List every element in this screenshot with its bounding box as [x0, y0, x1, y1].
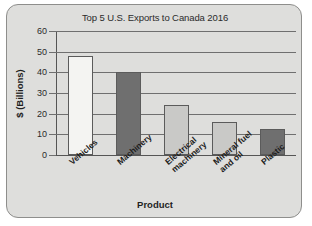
y-axis-tick	[49, 52, 56, 53]
x-axis-title: Product	[7, 199, 303, 210]
y-axis-tick-label: 30	[37, 88, 47, 98]
y-axis-tick	[49, 31, 56, 32]
y-axis-tick-label: 50	[37, 47, 47, 57]
gridline	[56, 31, 296, 32]
y-axis-title: $ (Billions)	[12, 31, 26, 155]
y-axis-tick-label: 20	[37, 109, 47, 119]
y-axis-title-text: $ (Billions)	[14, 69, 25, 118]
y-axis-tick-label: 60	[37, 26, 47, 36]
y-axis-tick	[49, 155, 56, 156]
y-axis-tick	[49, 134, 56, 135]
y-axis-tick-label: 0	[42, 150, 47, 160]
y-axis-tick-label: 10	[37, 129, 47, 139]
y-axis-tick	[49, 93, 56, 94]
gridline	[56, 52, 296, 53]
chart-title: Top 5 U.S. Exports to Canada 2016	[7, 12, 303, 23]
chart-frame: Top 5 U.S. Exports to Canada 2016 $ (Bil…	[6, 4, 302, 218]
y-axis-tick-label: 40	[37, 67, 47, 77]
chart-canvas: Top 5 U.S. Exports to Canada 2016 $ (Bil…	[7, 5, 303, 219]
y-axis-tick	[49, 114, 56, 115]
y-axis-tick	[49, 72, 56, 73]
